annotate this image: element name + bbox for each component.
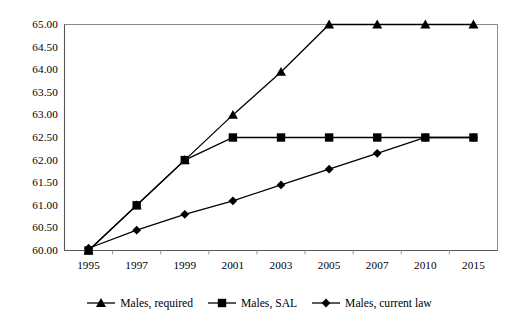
diamond-marker-icon [180, 210, 189, 219]
x-tick-label: 2007 [351, 259, 403, 271]
y-tick-label: 65.00 [8, 18, 58, 30]
x-tick-label: 2003 [255, 259, 307, 271]
legend-label: Males, required [120, 297, 193, 310]
diamond-marker-icon [325, 165, 334, 174]
legend-entry: Males, current law [311, 296, 432, 310]
diamond-marker-icon [373, 149, 382, 158]
x-tick-label: 1997 [111, 259, 163, 271]
square-marker-icon [229, 133, 237, 141]
y-tick-label: 60.00 [8, 244, 58, 256]
triangle-marker-icon [86, 296, 116, 310]
line-chart: 65.0064.5064.0063.5063.0062.5062.0061.50… [0, 0, 518, 331]
x-tick-label: 2001 [207, 259, 259, 271]
square-marker-icon [277, 133, 285, 141]
square-marker-icon [325, 133, 333, 141]
square-marker-icon [181, 156, 189, 164]
legend-entry: Males, required [86, 296, 193, 310]
diamond-marker-icon [277, 181, 286, 190]
y-tick-label: 61.50 [8, 176, 58, 188]
x-tick-label: 2005 [303, 259, 355, 271]
y-tick-label: 63.00 [8, 108, 58, 120]
square-marker-icon [207, 296, 237, 310]
x-tick-label: 1995 [63, 259, 115, 271]
y-tick-label: 63.50 [8, 86, 58, 98]
diamond-marker-icon [228, 196, 237, 205]
diamond-marker-icon [132, 226, 141, 235]
y-tick-label: 62.00 [8, 154, 58, 166]
series-3 [84, 133, 478, 253]
series-line [89, 138, 474, 251]
x-tick-label: 1999 [159, 259, 211, 271]
series-2 [84, 133, 477, 254]
x-tick-label: 2010 [399, 259, 451, 271]
square-marker-icon [218, 299, 226, 307]
square-marker-icon [373, 133, 381, 141]
series-line [89, 138, 474, 249]
y-tick-label: 60.50 [8, 221, 58, 233]
square-marker-icon [132, 201, 140, 209]
plot-area [0, 0, 518, 331]
y-tick-label: 62.50 [8, 131, 58, 143]
y-tick-label: 64.00 [8, 63, 58, 75]
y-tick-label: 64.50 [8, 41, 58, 53]
y-tick-label: 61.00 [8, 199, 58, 211]
x-tick-label: 2015 [447, 259, 499, 271]
diamond-marker-icon [322, 299, 331, 308]
legend-entry: Males, SAL [207, 296, 297, 310]
chart-legend: Males, requiredMales, SALMales, current … [0, 296, 518, 310]
legend-label: Males, current law [345, 297, 432, 310]
legend-label: Males, SAL [241, 297, 297, 310]
diamond-marker-icon [311, 296, 341, 310]
